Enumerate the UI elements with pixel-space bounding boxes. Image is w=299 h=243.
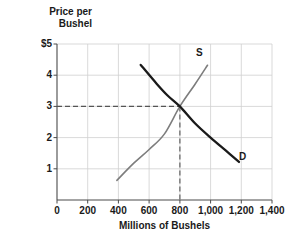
demand-curve [141, 65, 239, 162]
y-tick-label-5: $5 [22, 38, 52, 49]
y-tick-label-1: 1 [22, 163, 52, 174]
y-axis-title-line2: Bushel [59, 18, 92, 29]
supply-demand-chart: Price perBushel [0, 0, 299, 243]
grid-lines [57, 44, 272, 200]
y-tick-label-4: 4 [22, 69, 52, 80]
supply-curve-label: S [196, 47, 203, 58]
axis-lines [57, 44, 272, 200]
y-tick-label-2: 2 [22, 132, 52, 143]
x-axis-title: Millions of Bushels [57, 220, 272, 231]
x-tick-label-1400: 1,400 [249, 205, 295, 216]
demand-curve-label: D [239, 151, 246, 162]
axis-ticks [54, 44, 273, 204]
y-axis-title-line1: Price per [49, 6, 92, 17]
y-axis-title: Price perBushel [4, 6, 92, 30]
y-tick-label-3: 3 [22, 100, 52, 111]
